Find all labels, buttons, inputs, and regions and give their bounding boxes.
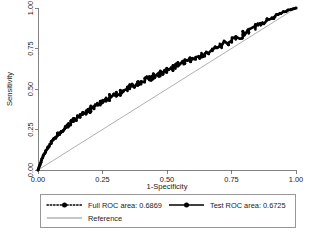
roc-point: [133, 86, 136, 89]
x-axis-ticks: [38, 170, 296, 174]
roc-point: [92, 107, 95, 110]
legend-label-reference: Reference: [88, 214, 122, 223]
x-tick-label-1: 0.25: [95, 175, 109, 184]
roc-point: [286, 9, 289, 12]
x-tick-label-3: 0.75: [224, 175, 238, 184]
roc-point: [101, 99, 104, 102]
x-tick-label-4: 1.00: [289, 175, 303, 184]
roc-point: [216, 46, 219, 49]
roc-point: [122, 89, 125, 92]
roc-point: [165, 67, 168, 70]
roc-point: [68, 123, 71, 126]
y-axis-tick-labels: 0.000.250.500.751.00: [26, 1, 35, 177]
x-tick-label-0: 0.00: [31, 175, 45, 184]
roc-point: [230, 40, 233, 43]
legend-label-full-roc: Full ROC area: 0.6869: [88, 201, 162, 210]
roc-point: [86, 109, 89, 112]
roc-point: [241, 33, 244, 36]
roc-point: [223, 40, 226, 43]
roc-point: [194, 56, 197, 59]
y-axis-title: Sensitivity: [5, 72, 14, 106]
roc-point: [108, 93, 111, 96]
chart-legend: Full ROC area: 0.6869 Test ROC area: 0.6…: [41, 195, 296, 228]
roc-point: [96, 104, 99, 107]
roc-point: [273, 15, 276, 18]
legend-circle-marker-icon-2: [184, 203, 189, 208]
roc-point: [115, 91, 118, 94]
roc-point: [100, 102, 103, 105]
roc-point: [171, 69, 174, 72]
legend-label-test-roc: Test ROC area: 0.6725: [210, 201, 286, 210]
roc-point: [241, 37, 244, 40]
roc-point: [211, 49, 214, 52]
roc-point: [247, 31, 250, 34]
roc-point: [152, 72, 155, 75]
roc-point: [105, 100, 108, 103]
y-tick-label-4: 1.00: [26, 1, 35, 15]
y-tick-label-1: 0.25: [26, 122, 35, 136]
roc-chart-svg: 0.000.250.500.751.00 0.000.250.500.751.0…: [0, 0, 310, 233]
roc-point: [165, 71, 168, 74]
y-tick-label-3: 0.75: [26, 41, 35, 55]
roc-point: [265, 17, 268, 20]
roc-point: [295, 7, 298, 10]
roc-point: [235, 35, 238, 38]
roc-point: [137, 80, 140, 83]
roc-point: [162, 71, 165, 74]
roc-point: [150, 79, 153, 82]
y-tick-label-2: 0.50: [26, 82, 35, 96]
roc-point: [153, 75, 156, 78]
roc-point: [220, 43, 223, 46]
roc-point: [108, 99, 111, 102]
roc-point: [79, 116, 82, 119]
roc-point: [198, 57, 201, 60]
roc-point: [89, 110, 92, 113]
roc-point: [261, 21, 264, 24]
roc-point: [183, 58, 186, 61]
roc-chart-figure: 0.000.250.500.751.00 0.000.250.500.751.0…: [0, 0, 310, 233]
roc-point: [176, 61, 179, 64]
roc-point: [227, 43, 230, 46]
roc-point: [115, 94, 118, 97]
roc-point: [75, 119, 78, 122]
roc-point: [145, 75, 148, 78]
roc-point: [137, 83, 140, 86]
roc-point: [207, 52, 210, 55]
roc-point: [140, 80, 143, 83]
roc-point: [279, 12, 282, 15]
roc-point: [248, 28, 251, 31]
roc-point: [189, 60, 192, 63]
roc-point: [277, 13, 280, 16]
reference-diagonal-line: [38, 8, 296, 170]
roc-point: [203, 55, 206, 58]
roc-point: [82, 111, 85, 114]
legend-box: [41, 195, 296, 228]
roc-point: [76, 114, 79, 117]
roc-point: [89, 105, 92, 108]
roc-point: [191, 57, 194, 60]
x-axis-title: 1-Specificity: [147, 182, 188, 191]
roc-point: [241, 30, 244, 33]
roc-point: [183, 62, 186, 65]
legend-circle-marker-icon: [62, 203, 67, 208]
roc-point: [119, 89, 122, 92]
roc-point: [282, 10, 285, 13]
roc-point: [72, 120, 75, 123]
